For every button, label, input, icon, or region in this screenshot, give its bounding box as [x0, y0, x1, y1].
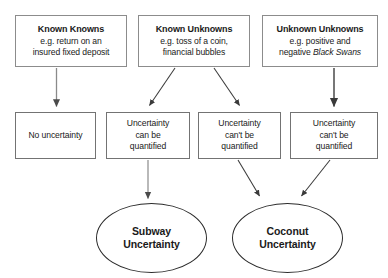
node-detail-line-2: insured fixed deposit [33, 47, 110, 58]
node-heading: Known Knowns [38, 24, 104, 36]
connector-cant-be-quantified-1-to-coconut [238, 160, 260, 196]
node-line-1: Uncertainty [218, 118, 260, 130]
node-line-2: can't be [319, 130, 348, 142]
node-detail-line-2: financial bubbles [163, 47, 225, 58]
node-line-3: quantified [316, 141, 352, 153]
node-no-uncertainty[interactable]: No uncertainty [15, 112, 96, 159]
node-line-3: quantified [221, 141, 257, 153]
node-coconut-uncertainty[interactable]: Coconut Uncertainty [232, 203, 343, 273]
node-line-1: Coconut [267, 225, 309, 239]
node-line-2: Uncertainty [259, 238, 316, 252]
diagram-canvas: Known Knowns e.g. return on an insured f… [0, 0, 388, 278]
node-heading: Known Unknowns [156, 24, 233, 36]
node-heading: Unknown Unknowns [277, 24, 364, 36]
connector-known-unknowns-to-can-be-quantified [150, 68, 176, 106]
connector-known-unknowns-to-cant-be-quantified-1 [214, 68, 240, 106]
node-line-2: can't be [225, 130, 254, 142]
node-detail-line-2: negative Black Swans [279, 47, 361, 58]
node-line-3: quantified [130, 141, 166, 153]
node-line-1: Subway [132, 225, 171, 239]
node-subway-uncertainty[interactable]: Subway Uncertainty [96, 203, 207, 273]
node-line-2: Uncertainty [123, 238, 180, 252]
node-line-1: Uncertainty [313, 118, 355, 130]
node-uncertainty-can-be-quantified[interactable]: Uncertainty can be quantified [106, 112, 190, 159]
node-detail-line-1: e.g. toss of a coin, [160, 36, 228, 47]
node-line-1: Uncertainty [127, 118, 169, 130]
node-detail-text: negative [279, 47, 313, 57]
node-detail-line-1: e.g. return on an [40, 36, 101, 47]
node-line-2: can be [135, 130, 160, 142]
node-detail-italic: Black Swans [313, 47, 361, 57]
connector-cant-be-quantified-2-to-coconut [302, 160, 331, 196]
node-uncertainty-cant-be-quantified-1[interactable]: Uncertainty can't be quantified [198, 112, 281, 159]
node-detail-line-1: e.g. positive and [290, 36, 351, 47]
node-known-knowns[interactable]: Known Knowns e.g. return on an insured f… [15, 15, 127, 67]
node-known-unknowns[interactable]: Known Unknowns e.g. toss of a coin, fina… [138, 15, 250, 67]
node-line-1: No uncertainty [28, 130, 82, 142]
node-unknown-unknowns[interactable]: Unknown Unknowns e.g. positive and negat… [262, 15, 378, 67]
node-uncertainty-cant-be-quantified-2[interactable]: Uncertainty can't be quantified [290, 112, 378, 159]
